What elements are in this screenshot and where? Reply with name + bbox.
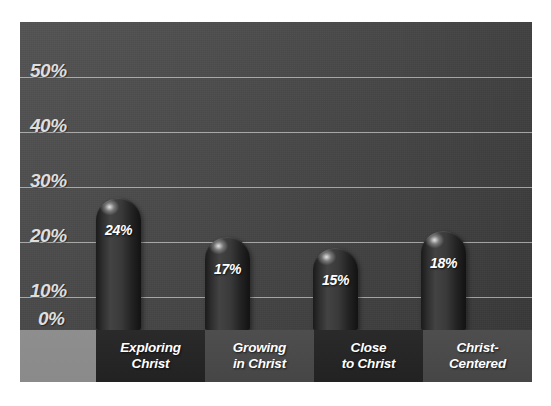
bar-close-to-christ[interactable]: 15% bbox=[313, 248, 358, 330]
ytick-label-30: 30% bbox=[30, 170, 67, 192]
category-label: Growing in Christ bbox=[233, 340, 286, 373]
category-label: Exploring Christ bbox=[120, 340, 180, 373]
gridline-30 bbox=[20, 187, 532, 188]
gridline-50 bbox=[20, 77, 532, 78]
bar-growing-in-christ[interactable]: 17% bbox=[205, 237, 250, 330]
category-cell-christ-centered[interactable]: Christ- Centered bbox=[423, 330, 532, 382]
plot-frame: 50% 40% 30% 20% 10% 0% 24% 17% 15% 18% bbox=[20, 22, 532, 382]
category-cell-exploring-christ[interactable]: Exploring Christ bbox=[96, 330, 205, 382]
bar-christ-centered[interactable]: 18% bbox=[421, 231, 466, 330]
category-label: Christ- Centered bbox=[449, 340, 506, 373]
ytick-label-0: 0% bbox=[38, 308, 64, 330]
plot-area: 50% 40% 30% 20% 10% 0% 24% 17% 15% 18% bbox=[20, 22, 532, 330]
category-cell-growing-in-christ[interactable]: Growing in Christ bbox=[205, 330, 314, 382]
bar-value-label: 15% bbox=[313, 272, 358, 288]
axis-band-spacer bbox=[20, 330, 96, 382]
bar-value-label: 18% bbox=[421, 255, 466, 271]
category-axis-band: Exploring Christ Growing in Christ Close… bbox=[20, 330, 532, 382]
bar-value-label: 24% bbox=[96, 222, 141, 238]
bar-value-label: 17% bbox=[205, 261, 250, 277]
ytick-label-50: 50% bbox=[30, 60, 67, 82]
ytick-label-10: 10% bbox=[30, 280, 67, 302]
gridline-40 bbox=[20, 132, 532, 133]
category-cell-close-to-christ[interactable]: Close to Christ bbox=[314, 330, 423, 382]
ytick-label-20: 20% bbox=[30, 225, 67, 247]
ytick-label-40: 40% bbox=[30, 115, 67, 137]
bar-chart-figure: 50% 40% 30% 20% 10% 0% 24% 17% 15% 18% bbox=[0, 0, 551, 406]
category-label: Close to Christ bbox=[342, 340, 396, 373]
bar-exploring-christ[interactable]: 24% bbox=[96, 198, 141, 330]
